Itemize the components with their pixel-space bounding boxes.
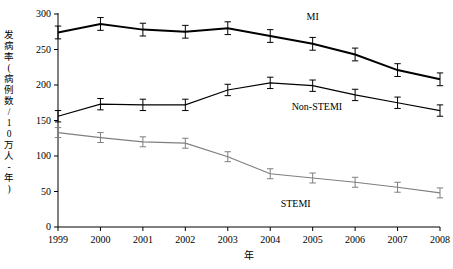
x-tick-label: 2006 <box>345 234 365 245</box>
y-tick-label: 100 <box>36 150 51 161</box>
x-axis-title: 年 <box>244 249 254 261</box>
line-chart: 0501001502002503001999200020012002200320… <box>0 0 453 269</box>
x-tick-label: 1999 <box>48 234 68 245</box>
y-tick-label: 250 <box>36 44 51 55</box>
x-tick-label: 2005 <box>303 234 323 245</box>
series-label-non-stemi: Non-STEMI <box>292 101 343 112</box>
x-tick-label: 2007 <box>388 234 408 245</box>
series-line-non-stemi <box>58 83 440 116</box>
x-tick-label: 2003 <box>218 234 238 245</box>
x-tick-label: 2000 <box>90 234 110 245</box>
x-tick-label: 2002 <box>175 234 195 245</box>
y-tick-label: 150 <box>36 115 51 126</box>
x-tick-label: 2004 <box>260 234 280 245</box>
error-bar-stemi <box>225 152 231 162</box>
series-line-mi <box>58 24 440 79</box>
series-label-stemi: STEMI <box>281 198 311 209</box>
x-tick-label: 2008 <box>430 234 450 245</box>
series-line-stemi <box>58 133 440 193</box>
series-label-mi: MI <box>307 11 319 22</box>
y-tick-label: 50 <box>41 186 51 197</box>
y-tick-label: 0 <box>46 221 51 232</box>
chart-figure: 发 病 率 ( 病 例 数 / 1 0 万 人 - 年 ) 0501001502… <box>0 0 453 269</box>
y-tick-label: 300 <box>36 8 51 19</box>
x-tick-label: 2001 <box>133 234 153 245</box>
y-tick-label: 200 <box>36 79 51 90</box>
